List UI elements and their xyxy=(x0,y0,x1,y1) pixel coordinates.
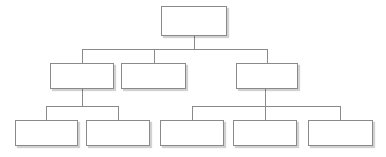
node-box-n7[interactable] xyxy=(160,120,224,146)
node-box-n2[interactable] xyxy=(50,63,114,89)
org-chart-diagram xyxy=(0,0,386,157)
node-box-n4[interactable] xyxy=(236,63,298,89)
node-box-n6[interactable] xyxy=(86,120,150,146)
node-box-n8[interactable] xyxy=(233,120,297,146)
node-box-n1[interactable] xyxy=(161,6,227,36)
node-box-n3[interactable] xyxy=(121,63,186,89)
node-box-n9[interactable] xyxy=(308,120,373,146)
node-box-n5[interactable] xyxy=(15,120,78,146)
